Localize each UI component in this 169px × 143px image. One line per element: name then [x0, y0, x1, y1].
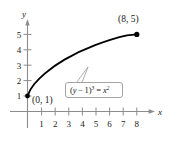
x-tick-label-5: 5: [94, 119, 99, 129]
x-tick-label-6: 6: [107, 119, 112, 129]
y-tick-label-3: 3: [17, 61, 22, 71]
eq-var-y: y: [72, 85, 77, 95]
x-axis-tick-labels: 1 2 3 4 5 6 7 8: [39, 119, 139, 129]
y-tick-label-4: 4: [17, 45, 22, 55]
x-axis-label: x: [157, 107, 162, 117]
math-plot: y x 1 2 3 4 5 6 7 8: [0, 0, 169, 143]
y-tick-label-5: 5: [17, 30, 22, 40]
equation-callout: (y−1)3=x2: [66, 83, 123, 98]
data-point-marker-origin: [25, 94, 30, 99]
x-tick-label-2: 2: [53, 119, 58, 129]
eq-minus: −: [78, 85, 83, 95]
callout-tail: [77, 67, 89, 83]
y-axis-label: y: [21, 9, 26, 19]
equation-text: (y−1)3=x2: [70, 85, 110, 96]
x-axis-arrowhead: [149, 109, 155, 114]
eq-exponent-two: 2: [107, 85, 110, 91]
x-tick-label-1: 1: [39, 119, 44, 129]
eq-equals: =: [96, 85, 101, 95]
data-point-marker-end: [134, 32, 139, 37]
y-axis-arrowhead: [25, 19, 29, 26]
point-label-8-5: (8, 5): [118, 14, 139, 25]
y-tick-label-2: 2: [17, 76, 22, 86]
x-tick-label-3: 3: [67, 119, 72, 129]
x-tick-label-8: 8: [135, 119, 140, 129]
callout-pointer: [77, 67, 89, 83]
eq-exponent-three: 3: [91, 85, 95, 91]
y-tick-label-1: 1: [17, 91, 22, 101]
figure-container: y x 1 2 3 4 5 6 7 8: [0, 0, 169, 143]
x-tick-label-4: 4: [80, 119, 85, 129]
axis-lines: [10, 22, 152, 128]
y-axis-tick-labels: 1 2 3 4 5: [17, 30, 22, 102]
point-label-0-1: (0, 1): [32, 95, 53, 106]
x-tick-label-7: 7: [121, 119, 126, 129]
